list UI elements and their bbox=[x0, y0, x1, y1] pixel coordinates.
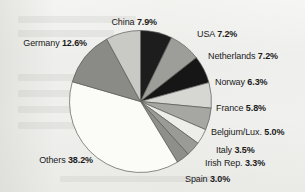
slice-label-others: Others 38.2% bbox=[39, 155, 93, 165]
slice-label-usa-value: 7.2% bbox=[217, 29, 237, 39]
slice-label-italy-value: 3.5% bbox=[234, 145, 254, 155]
slice-label-ireland-name: Irish Rep. bbox=[205, 158, 243, 168]
slice-label-usa-name: USA bbox=[197, 29, 215, 39]
slice-label-netherlands-name: Netherlands bbox=[208, 51, 255, 61]
slice-label-ireland-value: 3.3% bbox=[245, 158, 265, 168]
slice-label-norway: Norway 6.3% bbox=[215, 77, 267, 87]
slice-label-germany: Germany 12.6% bbox=[23, 38, 87, 48]
slice-label-france-name: France bbox=[216, 103, 243, 113]
slice-label-spain-value: 3.0% bbox=[210, 174, 230, 184]
slice-label-norway-name: Norway bbox=[215, 77, 245, 87]
slice-label-ireland: Irish Rep. 3.3% bbox=[205, 158, 265, 168]
pie-slices bbox=[70, 31, 212, 173]
slice-label-france: France 5.8% bbox=[216, 103, 266, 113]
slice-label-france-value: 5.8% bbox=[246, 103, 266, 113]
slice-label-belgium: Belgium/Lux. 5.0% bbox=[211, 127, 284, 137]
chart-plot-area: USA 7.2% Netherlands 7.2% Norway 6.3% Fr… bbox=[0, 0, 305, 192]
slice-label-others-name: Others bbox=[39, 155, 65, 165]
slice-label-netherlands-value: 7.2% bbox=[258, 51, 278, 61]
slice-label-germany-value: 12.6% bbox=[62, 38, 87, 48]
slice-label-italy-name: Italy bbox=[216, 145, 232, 155]
slice-label-china-value: 7.9% bbox=[137, 17, 157, 27]
slice-label-italy: Italy 3.5% bbox=[216, 145, 255, 155]
slice-label-others-value: 38.2% bbox=[68, 155, 93, 165]
slice-label-spain-name: Spain bbox=[185, 174, 208, 184]
pie-chart-figure: USA 7.2% Netherlands 7.2% Norway 6.3% Fr… bbox=[0, 0, 305, 192]
slice-label-germany-name: Germany bbox=[23, 38, 59, 48]
slice-label-china-name: China bbox=[111, 17, 134, 27]
slice-label-norway-value: 6.3% bbox=[247, 77, 267, 87]
slice-label-usa: USA 7.2% bbox=[197, 29, 237, 39]
slice-label-spain: Spain 3.0% bbox=[185, 174, 230, 184]
slice-label-netherlands: Netherlands 7.2% bbox=[208, 51, 278, 61]
slice-label-belgium-name: Belgium/Lux. bbox=[211, 127, 262, 137]
slice-label-belgium-value: 5.0% bbox=[264, 127, 284, 137]
slice-label-china: China 7.9% bbox=[111, 17, 157, 27]
